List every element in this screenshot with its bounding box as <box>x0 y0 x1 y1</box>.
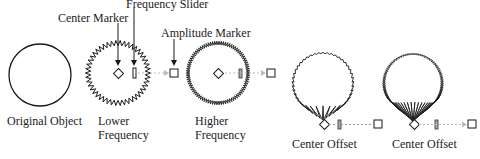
frequency-slider-callout: Frequency Slider <box>126 0 208 11</box>
frequency-slider-arrow-icon <box>131 60 137 66</box>
center-offset-shape <box>383 53 444 122</box>
label-line: Frequency <box>195 128 246 142</box>
center-marker-callout: Center Marker <box>58 11 128 25</box>
label-center-offset-2: Center Offset <box>392 137 457 151</box>
center-marker-arrow-icon <box>115 60 121 66</box>
label-line: Lower <box>98 114 149 128</box>
amplitude-marker-square[interactable] <box>267 69 275 77</box>
center-marker-diamond[interactable] <box>114 69 124 79</box>
amplitude-marker-square[interactable] <box>374 120 382 128</box>
amplitude-marker-square[interactable] <box>468 120 476 128</box>
amplitude-marker-callout: Amplitude Marker <box>161 26 251 40</box>
center-marker-diamond[interactable] <box>214 69 224 79</box>
amplitude-marker-arrow-icon <box>171 60 177 66</box>
label-higher-frequency: Higher Frequency <box>195 114 246 142</box>
label-line: Higher <box>195 114 246 128</box>
center-offset-shape <box>292 52 354 119</box>
amplitude-marker-square[interactable] <box>170 69 178 77</box>
label-center-offset-1: Center Offset <box>292 137 357 151</box>
center-marker-diamond[interactable] <box>410 120 420 130</box>
label-original-object: Original Object <box>7 114 82 128</box>
label-line: Frequency <box>98 128 149 142</box>
amplitude-arrow-icon <box>462 122 467 128</box>
label-lower-frequency: Lower Frequency <box>98 114 149 142</box>
frequency-slider-handle[interactable] <box>133 68 136 78</box>
center-marker-diamond[interactable] <box>320 120 330 130</box>
original-circle <box>9 44 71 106</box>
amplitude-arrow-icon <box>164 70 169 76</box>
amplitude-arrow-icon <box>261 70 266 76</box>
